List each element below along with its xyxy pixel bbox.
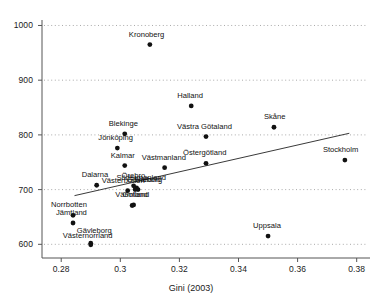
data-point [204,161,209,166]
data-point-label: Västernorrland [63,232,113,240]
data-point-label: Gävleborg [127,176,162,184]
regression-line [75,133,350,195]
axis-lines [42,20,370,258]
y-tick-label: 900 [3,75,33,85]
x-tick-label: 0.3 [103,264,137,274]
data-point [204,134,209,139]
x-tick-label: 0.34 [222,264,256,274]
y-tick-label: 600 [3,239,33,249]
data-point-label: Kalmar [111,152,135,160]
y-tick-label: 700 [3,185,33,195]
data-point [342,158,347,163]
x-tick-label: 0.38 [340,264,374,274]
data-point [162,165,167,170]
y-tick-label: 800 [3,130,33,140]
x-tick-label: 0.36 [281,264,315,274]
data-point [189,103,194,108]
data-point-label: Blekinge [109,120,138,128]
data-point [115,146,120,151]
data-point [147,42,152,47]
data-point [272,125,277,130]
data-point [122,163,127,168]
data-point [266,234,271,239]
data-point-label: Kronoberg [129,31,164,39]
data-point [94,183,99,188]
x-tick-label: 0.32 [162,264,196,274]
data-point-label: Jönköping [98,134,133,142]
data-point-label: Jämtland [56,209,87,217]
data-point [131,203,136,208]
data-point-label: Halland [177,92,203,100]
data-point [71,221,76,226]
data-points [71,42,348,247]
data-point-label: Skåne [264,113,286,121]
data-point [88,242,93,247]
data-point-label: Gotland [123,191,150,199]
data-point-label: Västra Götaland [177,123,232,131]
data-point-label: Västmanland [142,154,186,162]
y-tick-label: 1000 [3,20,33,30]
x-axis-title: Gini (2003) [0,283,382,293]
scatter-chart: 6007008009001000 0.280.30.320.340.360.38… [0,0,382,303]
data-point-label: Stockholm [323,146,358,154]
x-tick-label: 0.28 [44,264,78,274]
fit-line [75,133,350,195]
data-point-label: Uppsala [253,222,281,230]
data-point-label: Östergötland [183,149,226,157]
